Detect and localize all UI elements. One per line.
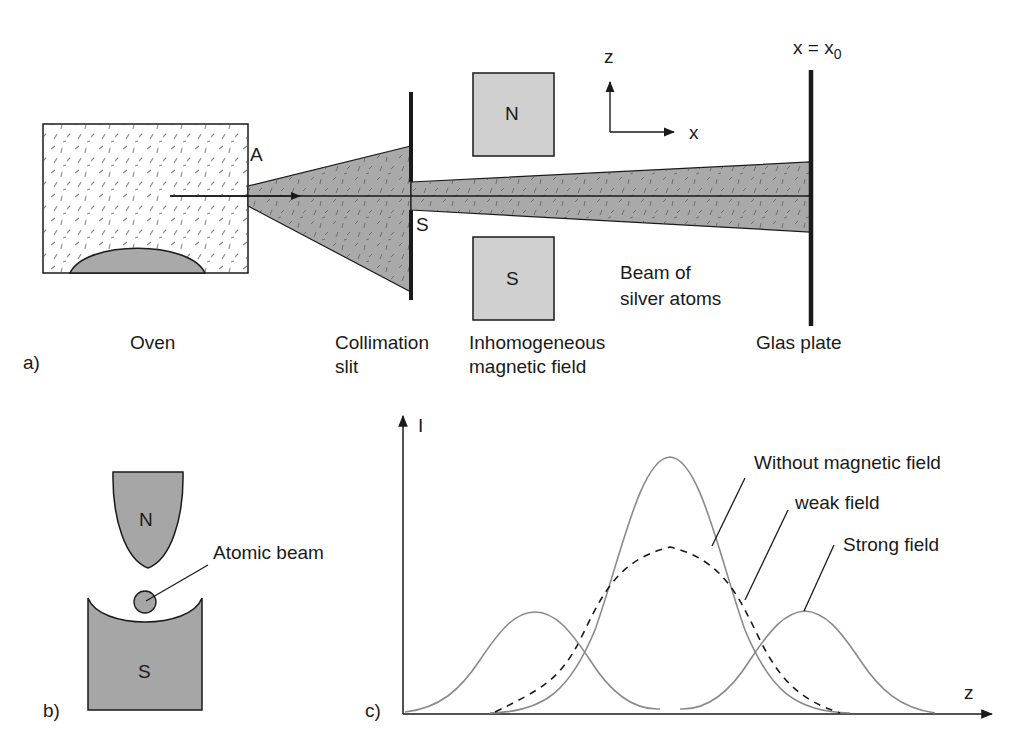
legend-strong-field: Strong field xyxy=(843,534,939,556)
curve-weak-field xyxy=(495,547,840,713)
axis-x-label: x xyxy=(689,122,699,144)
collimation-label-line1: Collimation xyxy=(335,332,429,354)
atomic-beam-leader xyxy=(146,565,208,601)
aperture-label: A xyxy=(250,144,263,166)
beam-label-line2: silver atoms xyxy=(620,288,721,310)
panel-a-tag: a) xyxy=(23,352,40,374)
legend-without-field: Without magnetic field xyxy=(754,452,941,474)
pole-north-label: N xyxy=(139,509,153,531)
legend-weak-field: weak field xyxy=(795,492,880,514)
leader-weak-field xyxy=(745,510,788,600)
magnet-north-label: N xyxy=(505,103,519,125)
coordinate-axes-icon xyxy=(610,82,674,132)
leader-strong-field xyxy=(804,545,834,611)
panel-b-tag: b) xyxy=(43,700,60,722)
beam-label-line1: Beam of xyxy=(620,262,691,284)
slit-label: S xyxy=(416,214,429,236)
atomic-beam-label: Atomic beam xyxy=(213,542,324,564)
magnet-south-label: S xyxy=(506,268,519,290)
oven-label: Oven xyxy=(130,332,175,354)
curve-strong-field-lower xyxy=(405,612,660,712)
pole-south-label: S xyxy=(138,661,151,683)
axis-z-label: z xyxy=(604,46,614,68)
plate-position-label: x = x0 xyxy=(793,37,841,65)
leader-without-field xyxy=(712,478,745,546)
plate-label: Glas plate xyxy=(756,332,842,354)
magnet-label-line2: magnetic field xyxy=(469,356,586,378)
panel-c-tag: c) xyxy=(365,700,381,722)
collimation-label-line2: slit xyxy=(335,356,358,378)
oven xyxy=(43,124,248,273)
x-axis-label: z xyxy=(964,682,974,704)
pole-south xyxy=(88,598,202,710)
magnet-label-line1: Inhomogeneous xyxy=(469,332,605,354)
atomic-beam-cross-section xyxy=(134,591,156,613)
y-axis-label: I xyxy=(418,415,423,437)
